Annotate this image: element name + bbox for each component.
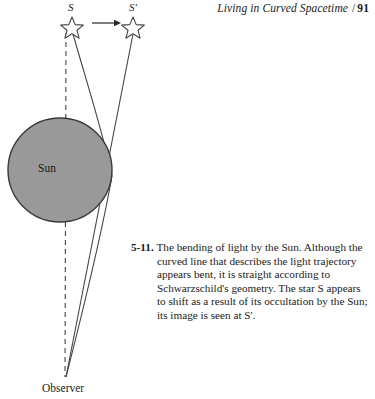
sun-label: Sun <box>38 162 56 174</box>
sun-disk-icon <box>8 118 112 222</box>
figure-light-bending-diagram <box>0 0 375 399</box>
star-icon <box>61 17 84 38</box>
observer-label: Observer <box>42 382 84 394</box>
book-page: Living in Curved Spacetime/91 S S' Sun O… <box>0 0 375 399</box>
star-label-s: S <box>68 1 74 13</box>
right-arrow-icon <box>92 20 121 26</box>
star-label-s-prime: S' <box>129 1 137 13</box>
caption-text: The bending of light by the Sun. Althoug… <box>156 241 367 321</box>
caption-number: 5-11. <box>131 241 154 253</box>
figure-caption: 5-11. The bending of light by the Sun. A… <box>131 241 369 323</box>
